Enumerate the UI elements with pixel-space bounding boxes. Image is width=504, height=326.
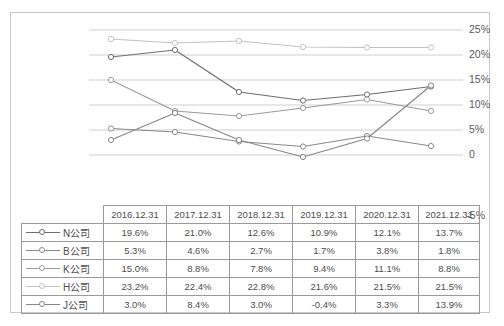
table-header-2021: 2021.12.31: [419, 206, 480, 224]
table-row: J公司3.0%8.4%3.0%-0.4%3.3%13.9%: [22, 296, 480, 314]
table-cell: 12.6%: [230, 224, 293, 242]
table-cell: 2.7%: [230, 242, 293, 260]
y-axis-tick-label: 25%: [469, 23, 490, 35]
legend-cell-3: H公司: [22, 278, 104, 296]
table-cell: 11.1%: [356, 260, 419, 278]
table-cell: 21.0%: [167, 224, 230, 242]
table-cell: 23.2%: [104, 278, 167, 296]
data-point-marker: [108, 36, 113, 41]
data-point-marker: [236, 38, 241, 43]
data-point-marker: [428, 108, 433, 113]
legend-label: H公司: [63, 279, 90, 294]
legend-cell-0: N公司: [22, 224, 104, 242]
legend-cell-2: K公司: [22, 260, 104, 278]
table-cell: 22.8%: [230, 278, 293, 296]
data-point-marker: [236, 113, 241, 118]
legend-label: B公司: [63, 243, 90, 258]
table-cell: 8.4%: [167, 296, 230, 314]
legend-label: J公司: [63, 297, 88, 312]
table-row: B公司5.3%4.6%2.7%1.7%3.8%1.8%: [22, 242, 480, 260]
data-point-marker: [428, 45, 433, 50]
table-cell: 8.8%: [419, 260, 480, 278]
table-cell: 13.7%: [419, 224, 480, 242]
legend-line-marker-icon: [26, 300, 60, 309]
series-line-N公司: [111, 50, 431, 101]
table-header-row: 2016.12.31 2017.12.31 2018.12.31 2019.12…: [22, 206, 480, 224]
data-point-marker: [108, 137, 113, 142]
table-cell: 19.6%: [104, 224, 167, 242]
table-cell: 10.9%: [293, 224, 356, 242]
table-cell: 22.4%: [167, 278, 230, 296]
legend-line-marker-icon: [26, 246, 60, 255]
table-corner-cell: [22, 206, 104, 224]
table-cell: 13.9%: [419, 296, 480, 314]
table-row: N公司19.6%21.0%12.6%10.9%12.1%13.7%: [22, 224, 480, 242]
data-table-container: 2016.12.31 2017.12.31 2018.12.31 2019.12…: [21, 205, 479, 314]
data-point-marker: [364, 45, 369, 50]
legend-label: K公司: [63, 261, 90, 276]
table-cell: 3.8%: [356, 242, 419, 260]
legend-label: N公司: [63, 225, 90, 240]
data-point-marker: [364, 97, 369, 102]
y-axis-tick-label: 20%: [469, 48, 490, 60]
table-header-2016: 2016.12.31: [104, 206, 167, 224]
legend-line-marker-icon: [26, 228, 60, 237]
table-cell: 1.8%: [419, 242, 480, 260]
series-line-K公司: [111, 80, 431, 116]
table-row: H公司23.2%22.4%22.8%21.6%21.5%21.5%: [22, 278, 480, 296]
table-cell: 9.4%: [293, 260, 356, 278]
table-cell: 4.6%: [167, 242, 230, 260]
table-row: K公司15.0%8.8%7.8%9.4%11.1%8.8%: [22, 260, 480, 278]
data-point-marker: [300, 154, 305, 159]
table-cell: 12.1%: [356, 224, 419, 242]
table-header-2018: 2018.12.31: [230, 206, 293, 224]
table-cell: 5.3%: [104, 242, 167, 260]
table-cell: 7.8%: [230, 260, 293, 278]
data-point-marker: [428, 83, 433, 88]
data-point-marker: [108, 77, 113, 82]
data-point-marker: [172, 40, 177, 45]
data-point-marker: [364, 136, 369, 141]
data-point-marker: [428, 143, 433, 148]
legend-cell-1: B公司: [22, 242, 104, 260]
data-point-marker: [300, 144, 305, 149]
y-axis-tick-label: 5%: [469, 123, 484, 135]
data-point-marker: [300, 105, 305, 110]
data-point-marker: [236, 137, 241, 142]
table-cell: 21.5%: [419, 278, 480, 296]
line-chart-plot: 25%20%15%10%5%0: [11, 13, 491, 203]
data-point-marker: [172, 47, 177, 52]
table-cell: 3.0%: [230, 296, 293, 314]
y-axis-tick-label: 10%: [469, 98, 490, 110]
table-cell: -0.4%: [293, 296, 356, 314]
data-point-marker: [364, 92, 369, 97]
table-cell: 1.7%: [293, 242, 356, 260]
data-table: 2016.12.31 2017.12.31 2018.12.31 2019.12…: [21, 205, 480, 314]
y-axis-tick-label: 0: [469, 148, 475, 160]
data-point-marker: [172, 129, 177, 134]
data-point-marker: [300, 98, 305, 103]
data-point-marker: [108, 54, 113, 59]
table-body: N公司19.6%21.0%12.6%10.9%12.1%13.7%B公司5.3%…: [22, 224, 480, 314]
legend-line-marker-icon: [26, 264, 60, 273]
table-header-2019: 2019.12.31: [293, 206, 356, 224]
data-point-marker: [300, 44, 305, 49]
table-cell: 21.6%: [293, 278, 356, 296]
legend-cell-4: J公司: [22, 296, 104, 314]
data-point-marker: [172, 110, 177, 115]
chart-svg: 25%20%15%10%5%0: [11, 13, 491, 203]
table-cell: 21.5%: [356, 278, 419, 296]
table-cell: 3.0%: [104, 296, 167, 314]
table-header-2020: 2020.12.31: [356, 206, 419, 224]
series-line-B公司: [111, 129, 431, 147]
chart-frame: 25%20%15%10%5%0 -5% 2016.12.31 2017.12.3…: [10, 12, 490, 313]
table-cell: 8.8%: [167, 260, 230, 278]
table-header-2017: 2017.12.31: [167, 206, 230, 224]
table-cell: 15.0%: [104, 260, 167, 278]
table-cell: 3.3%: [356, 296, 419, 314]
data-point-marker: [108, 126, 113, 131]
y-axis-tick-label: 15%: [469, 73, 490, 85]
series-line-H公司: [111, 39, 431, 48]
data-point-marker: [236, 89, 241, 94]
legend-line-marker-icon: [26, 282, 60, 291]
